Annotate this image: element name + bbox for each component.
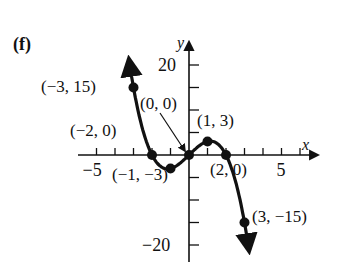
- point-label: (−3, 15): [41, 77, 96, 96]
- y-tick-label: 20: [158, 55, 176, 75]
- data-point: [221, 150, 231, 160]
- y-tick-label: −20: [142, 235, 170, 255]
- data-point: [147, 150, 157, 160]
- x-tick-label: 5: [277, 160, 286, 180]
- x-tick-label: −5: [83, 160, 102, 180]
- point-label: (0, 0): [140, 94, 177, 113]
- data-point: [203, 137, 213, 147]
- point-label: (2, 0): [210, 160, 247, 179]
- data-point: [129, 83, 139, 93]
- point-label: (3, −15): [252, 207, 307, 226]
- point-labels: (−3, 15)(−2, 0)(−1, −3)(0, 0)(1, 3)(2, 0…: [41, 77, 307, 226]
- point-label: (−1, −3): [112, 165, 168, 184]
- function-graph: yx−5520−20 (−3, 15)(−2, 0)(−1, −3)(0, 0)…: [0, 0, 346, 276]
- point-label: (−2, 0): [70, 121, 116, 140]
- x-axis-label: x: [301, 136, 309, 153]
- annotation-arrow: [160, 113, 185, 151]
- y-axis-label: y: [175, 34, 185, 52]
- point-label: (1, 3): [197, 111, 234, 130]
- data-point: [184, 150, 194, 160]
- data-point: [240, 218, 250, 228]
